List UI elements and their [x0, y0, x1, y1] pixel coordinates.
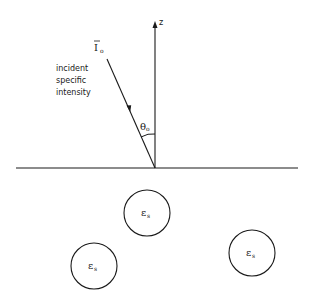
scatterer-subscript: s — [147, 212, 150, 219]
scatterer-symbol: ε — [141, 207, 146, 218]
incidence-angle: θ o — [140, 121, 155, 137]
scatterer-symbol: ε — [88, 260, 93, 271]
scatterer-1: ε s — [124, 190, 170, 236]
incident-subscript: o — [100, 47, 104, 54]
caption-line-2: specific — [56, 76, 86, 85]
diagram-canvas: z I o incident specific intensity θ o ε … — [0, 0, 313, 303]
z-axis: z — [153, 18, 164, 168]
caption-line-3: intensity — [56, 88, 91, 97]
angle-subscript: o — [146, 125, 150, 132]
scatterer-3: ε s — [229, 230, 275, 276]
scatterer-subscript: s — [94, 265, 97, 272]
incident-direction-arrow-icon — [127, 105, 132, 112]
z-axis-arrowhead-icon — [153, 21, 158, 28]
scatterer-subscript: s — [252, 252, 255, 259]
incident-ray — [107, 59, 155, 168]
incident-symbol: I — [94, 42, 98, 53]
scatterer-symbol: ε — [246, 247, 251, 258]
incident-caption: incident specific intensity — [56, 64, 91, 97]
caption-line-1: incident — [56, 64, 88, 73]
z-axis-label: z — [159, 18, 163, 27]
scatterer-2: ε s — [71, 243, 117, 289]
incident-intensity-symbol: I o — [94, 41, 104, 54]
